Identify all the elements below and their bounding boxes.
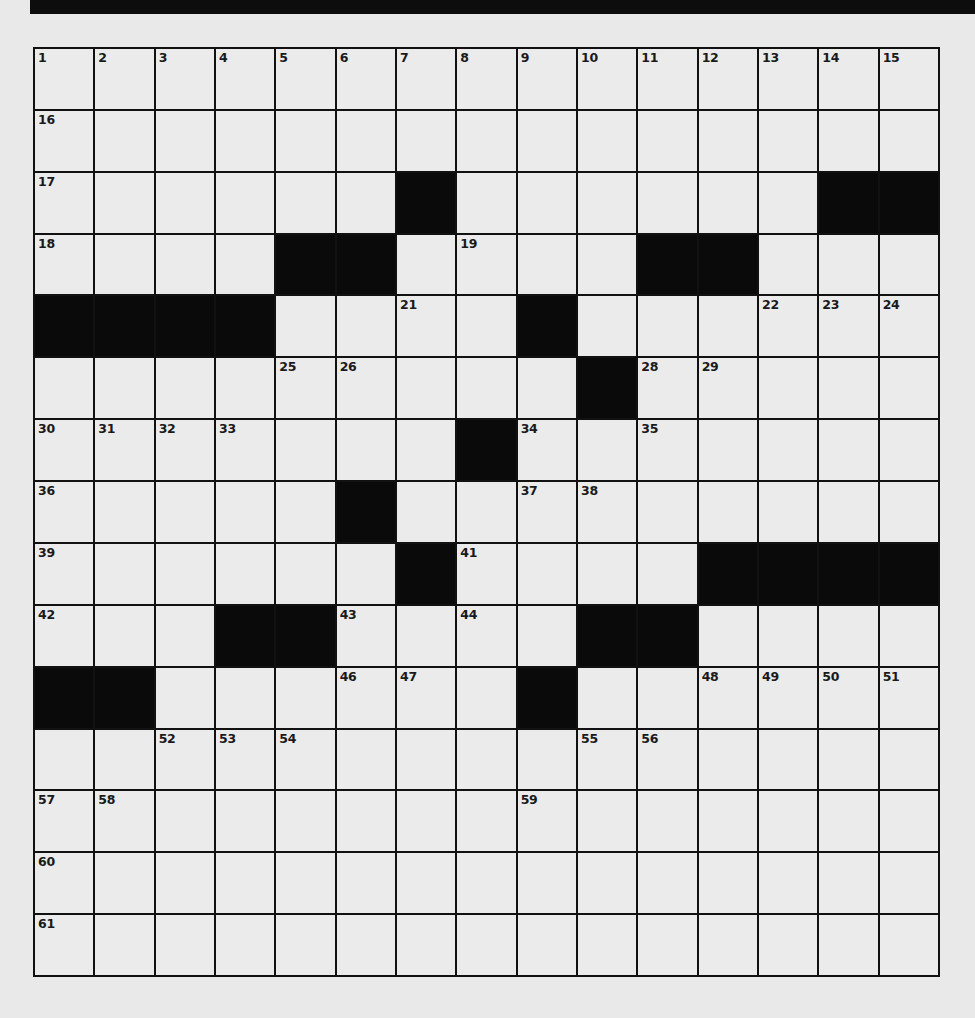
crossword-cell[interactable]: 49 <box>759 668 817 728</box>
crossword-cell[interactable] <box>699 915 757 975</box>
crossword-cell[interactable] <box>457 111 515 171</box>
crossword-cell[interactable] <box>699 853 757 913</box>
crossword-cell[interactable] <box>397 791 455 851</box>
crossword-cell[interactable] <box>156 668 214 728</box>
crossword-cell[interactable]: 17 <box>35 173 93 233</box>
crossword-cell[interactable] <box>457 668 515 728</box>
crossword-cell[interactable] <box>156 235 214 295</box>
crossword-cell[interactable]: 37 <box>518 482 576 542</box>
crossword-cell[interactable] <box>638 668 696 728</box>
crossword-cell[interactable] <box>518 173 576 233</box>
crossword-cell[interactable] <box>397 730 455 790</box>
crossword-cell[interactable] <box>699 791 757 851</box>
crossword-cell[interactable] <box>518 606 576 666</box>
crossword-cell[interactable]: 36 <box>35 482 93 542</box>
crossword-cell[interactable]: 18 <box>35 235 93 295</box>
crossword-cell[interactable] <box>759 730 817 790</box>
crossword-cell[interactable] <box>337 791 395 851</box>
crossword-cell[interactable]: 24 <box>880 296 938 356</box>
crossword-cell[interactable]: 6 <box>337 49 395 109</box>
crossword-cell[interactable]: 57 <box>35 791 93 851</box>
crossword-cell[interactable] <box>699 111 757 171</box>
crossword-cell[interactable] <box>699 420 757 480</box>
crossword-cell[interactable] <box>518 853 576 913</box>
crossword-cell[interactable]: 52 <box>156 730 214 790</box>
crossword-cell[interactable] <box>578 544 636 604</box>
crossword-cell[interactable]: 10 <box>578 49 636 109</box>
crossword-cell[interactable] <box>397 915 455 975</box>
crossword-cell[interactable] <box>880 235 938 295</box>
crossword-cell[interactable] <box>216 544 274 604</box>
crossword-cell[interactable]: 60 <box>35 853 93 913</box>
crossword-cell[interactable] <box>638 482 696 542</box>
crossword-cell[interactable] <box>156 853 214 913</box>
crossword-cell[interactable]: 51 <box>880 668 938 728</box>
crossword-cell[interactable] <box>759 420 817 480</box>
crossword-cell[interactable] <box>880 915 938 975</box>
crossword-cell[interactable] <box>156 544 214 604</box>
crossword-cell[interactable]: 4 <box>216 49 274 109</box>
crossword-cell[interactable]: 43 <box>337 606 395 666</box>
crossword-cell[interactable]: 21 <box>397 296 455 356</box>
crossword-cell[interactable] <box>578 915 636 975</box>
crossword-cell[interactable]: 15 <box>880 49 938 109</box>
crossword-cell[interactable] <box>759 606 817 666</box>
crossword-cell[interactable] <box>819 915 877 975</box>
crossword-cell[interactable] <box>216 915 274 975</box>
crossword-cell[interactable] <box>156 358 214 418</box>
crossword-cell[interactable]: 34 <box>518 420 576 480</box>
crossword-cell[interactable]: 50 <box>819 668 877 728</box>
crossword-cell[interactable] <box>518 235 576 295</box>
crossword-cell[interactable] <box>638 173 696 233</box>
crossword-cell[interactable]: 48 <box>699 668 757 728</box>
crossword-cell[interactable] <box>759 358 817 418</box>
crossword-cell[interactable] <box>337 544 395 604</box>
crossword-cell[interactable] <box>216 235 274 295</box>
crossword-cell[interactable] <box>95 235 153 295</box>
crossword-cell[interactable] <box>759 173 817 233</box>
crossword-cell[interactable]: 14 <box>819 49 877 109</box>
crossword-cell[interactable] <box>819 235 877 295</box>
crossword-cell[interactable] <box>276 111 334 171</box>
crossword-cell[interactable] <box>638 853 696 913</box>
crossword-cell[interactable] <box>699 730 757 790</box>
crossword-cell[interactable] <box>216 173 274 233</box>
crossword-cell[interactable] <box>397 235 455 295</box>
crossword-cell[interactable] <box>457 730 515 790</box>
crossword-cell[interactable] <box>397 358 455 418</box>
crossword-cell[interactable]: 13 <box>759 49 817 109</box>
crossword-cell[interactable] <box>457 358 515 418</box>
crossword-cell[interactable] <box>578 668 636 728</box>
crossword-cell[interactable]: 35 <box>638 420 696 480</box>
crossword-cell[interactable] <box>35 730 93 790</box>
crossword-cell[interactable]: 19 <box>457 235 515 295</box>
crossword-cell[interactable] <box>638 111 696 171</box>
crossword-cell[interactable] <box>819 606 877 666</box>
crossword-cell[interactable]: 1 <box>35 49 93 109</box>
crossword-cell[interactable] <box>337 915 395 975</box>
crossword-cell[interactable] <box>699 296 757 356</box>
crossword-cell[interactable] <box>819 730 877 790</box>
crossword-cell[interactable] <box>216 668 274 728</box>
crossword-cell[interactable] <box>638 915 696 975</box>
crossword-cell[interactable] <box>759 791 817 851</box>
crossword-cell[interactable] <box>156 111 214 171</box>
crossword-cell[interactable] <box>880 358 938 418</box>
crossword-cell[interactable]: 38 <box>578 482 636 542</box>
crossword-cell[interactable] <box>578 791 636 851</box>
crossword-cell[interactable]: 16 <box>35 111 93 171</box>
crossword-cell[interactable] <box>759 235 817 295</box>
crossword-cell[interactable] <box>578 420 636 480</box>
crossword-cell[interactable] <box>880 111 938 171</box>
crossword-cell[interactable] <box>276 791 334 851</box>
crossword-cell[interactable] <box>699 606 757 666</box>
crossword-cell[interactable] <box>95 358 153 418</box>
crossword-cell[interactable]: 42 <box>35 606 93 666</box>
crossword-cell[interactable] <box>95 482 153 542</box>
crossword-cell[interactable] <box>216 791 274 851</box>
crossword-cell[interactable] <box>156 482 214 542</box>
crossword-cell[interactable] <box>95 730 153 790</box>
crossword-cell[interactable] <box>216 482 274 542</box>
crossword-cell[interactable] <box>337 420 395 480</box>
crossword-cell[interactable]: 58 <box>95 791 153 851</box>
